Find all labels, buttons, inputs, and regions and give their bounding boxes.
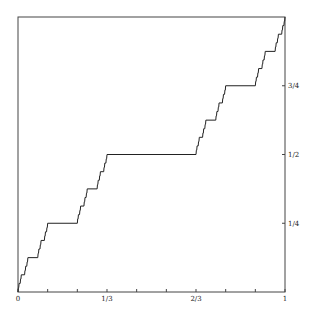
x-tick-label: 2/3 — [190, 295, 201, 303]
x-axis-ticks: 01/32/31 — [16, 289, 287, 303]
cantor-curve — [18, 17, 285, 292]
y-tick-label: 1/4 — [288, 220, 300, 228]
x-tick-label: 1 — [283, 295, 287, 303]
x-tick-label: 0 — [16, 295, 20, 303]
cantor-function-chart: 01/32/31 1/41/23/4 — [0, 0, 311, 317]
y-tick-label: 3/4 — [288, 82, 300, 90]
y-tick-label: 1/2 — [288, 151, 299, 159]
x-tick-label: 1/3 — [101, 295, 112, 303]
